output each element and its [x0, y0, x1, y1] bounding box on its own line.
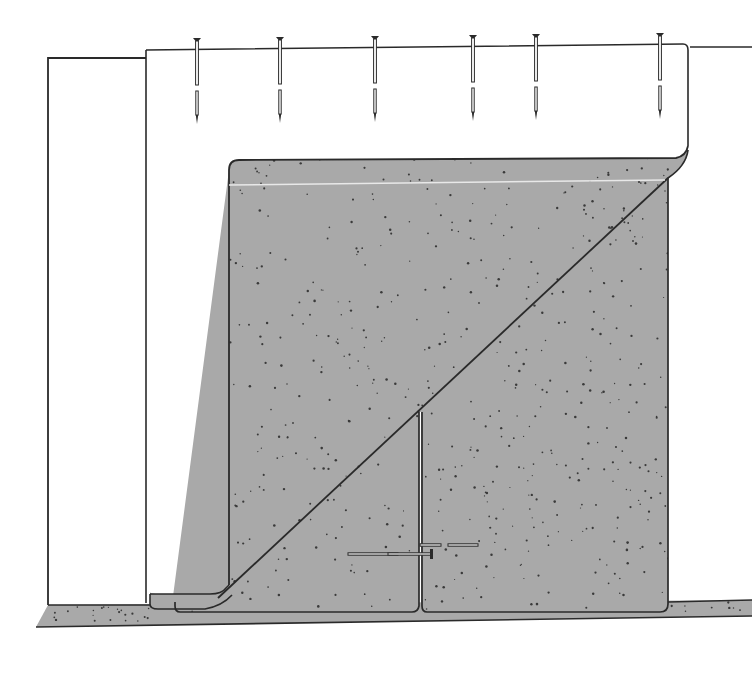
- nail-icon: [448, 544, 478, 546]
- nail-icon: [388, 553, 432, 555]
- metal-sheet: [149, 146, 688, 612]
- flashing-diagram: [0, 0, 752, 683]
- wall-outline: [48, 58, 146, 605]
- diagram-canvas: [0, 0, 752, 683]
- nail-icon: [420, 544, 441, 546]
